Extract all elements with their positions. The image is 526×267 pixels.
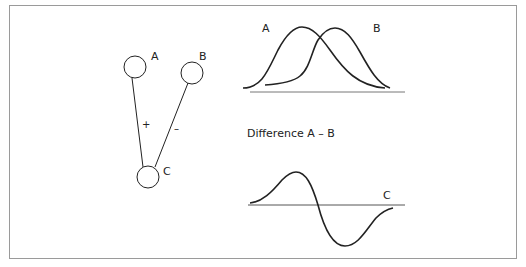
- diagram-canvas: A B C + – A B Difference A – B C: [0, 0, 526, 267]
- edge-a-c-sign: +: [142, 119, 150, 130]
- difference-title: Difference A – B: [247, 127, 335, 140]
- curve-b-label: B: [373, 22, 381, 35]
- node-c-circle: [137, 166, 159, 188]
- edge-b-to-c: [155, 83, 188, 167]
- difference-graph: [248, 172, 405, 246]
- node-a-label: A: [151, 50, 159, 63]
- curve-a-label: A: [262, 22, 270, 35]
- difference-curve: [250, 172, 393, 246]
- difference-curve-label: C: [383, 189, 391, 202]
- curve-b: [265, 28, 390, 88]
- node-b-label: B: [199, 50, 207, 63]
- node-b-circle: [181, 62, 203, 84]
- node-c-label: C: [163, 165, 171, 178]
- node-a-circle: [124, 56, 146, 78]
- overlap-graph: [243, 27, 405, 92]
- edge-b-c-sign: –: [174, 123, 179, 134]
